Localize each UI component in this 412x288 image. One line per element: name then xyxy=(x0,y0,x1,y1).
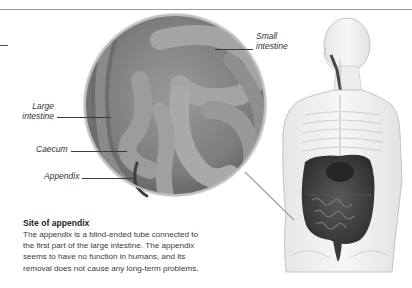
caption-title: Site of appendix xyxy=(23,218,223,229)
caption: Site of appendix The appendix is a blind… xyxy=(23,218,223,274)
label-small-intestine: Small intestine xyxy=(256,31,288,51)
leader-appendix xyxy=(82,178,136,179)
leader-small-intestine xyxy=(215,49,253,50)
label-caecum: Caecum xyxy=(36,144,68,154)
caption-body: The appendix is a blind-ended tube conne… xyxy=(23,229,223,274)
label-appendix: Appendix xyxy=(44,171,79,181)
leader-large-intestine xyxy=(57,117,111,118)
magnifier-connector xyxy=(245,172,294,220)
caption-line: the first part of the large intestine. T… xyxy=(23,240,223,251)
caption-line: removal does not cause any long-term pro… xyxy=(23,263,223,274)
label-large-intestine: Large intestine xyxy=(18,101,54,121)
leader-caecum xyxy=(71,151,127,152)
caption-line: The appendix is a blind-ended tube conne… xyxy=(23,229,223,240)
caption-line: seems to have no function in humans, and… xyxy=(23,251,223,262)
